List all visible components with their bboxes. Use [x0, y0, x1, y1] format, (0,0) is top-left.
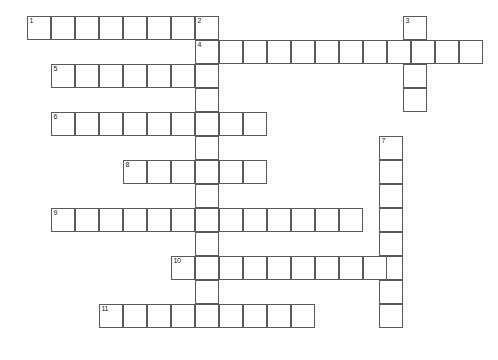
cell-number-4: 4 — [198, 41, 202, 49]
crossword-cell[interactable] — [195, 208, 219, 232]
crossword-cell[interactable] — [363, 40, 387, 64]
crossword-cell[interactable] — [219, 160, 243, 184]
crossword-cell-numbered-7[interactable]: 7 — [379, 136, 403, 160]
crossword-cell[interactable] — [99, 64, 123, 88]
crossword-cell-numbered-3[interactable]: 3 — [403, 16, 427, 40]
crossword-cell[interactable] — [363, 256, 387, 280]
crossword-cell[interactable] — [195, 184, 219, 208]
crossword-cell[interactable] — [147, 16, 171, 40]
crossword-cell[interactable] — [75, 16, 99, 40]
crossword-cell[interactable] — [243, 40, 267, 64]
crossword-cell[interactable] — [403, 88, 427, 112]
crossword-grid: 1243567891011 — [0, 0, 498, 360]
crossword-cell[interactable] — [243, 304, 267, 328]
crossword-cell[interactable] — [195, 280, 219, 304]
cell-number-1: 1 — [30, 17, 34, 25]
crossword-cell[interactable] — [435, 40, 459, 64]
crossword-cell[interactable] — [339, 40, 363, 64]
crossword-cell[interactable] — [75, 64, 99, 88]
crossword-cell[interactable] — [171, 160, 195, 184]
crossword-cell[interactable] — [387, 40, 411, 64]
crossword-cell[interactable] — [195, 160, 219, 184]
crossword-cell[interactable] — [339, 256, 363, 280]
crossword-cell-numbered-4[interactable]: 4 — [195, 40, 219, 64]
crossword-cell[interactable] — [379, 208, 403, 232]
crossword-cell[interactable] — [403, 64, 427, 88]
crossword-cell[interactable] — [147, 64, 171, 88]
cell-number-10: 10 — [174, 257, 181, 265]
crossword-cell[interactable] — [99, 112, 123, 136]
crossword-cell[interactable] — [171, 208, 195, 232]
crossword-cell[interactable] — [171, 16, 195, 40]
crossword-cell[interactable] — [291, 208, 315, 232]
cell-number-8: 8 — [126, 161, 130, 169]
crossword-cell[interactable] — [99, 208, 123, 232]
crossword-cell[interactable] — [411, 40, 435, 64]
crossword-cell[interactable] — [243, 208, 267, 232]
crossword-cell[interactable] — [379, 304, 403, 328]
crossword-cell[interactable] — [123, 64, 147, 88]
crossword-cell[interactable] — [99, 16, 123, 40]
crossword-cell[interactable] — [171, 112, 195, 136]
crossword-cell[interactable] — [267, 40, 291, 64]
crossword-cell[interactable] — [171, 304, 195, 328]
crossword-cell[interactable] — [379, 184, 403, 208]
crossword-cell[interactable] — [219, 256, 243, 280]
crossword-cell[interactable] — [379, 160, 403, 184]
cell-number-2: 2 — [198, 17, 202, 25]
crossword-cell[interactable] — [219, 112, 243, 136]
cell-number-6: 6 — [54, 113, 58, 121]
crossword-cell[interactable] — [379, 232, 403, 256]
crossword-cell[interactable] — [459, 40, 483, 64]
crossword-cell[interactable] — [195, 136, 219, 160]
cell-number-9: 9 — [54, 209, 58, 217]
crossword-cell[interactable] — [75, 208, 99, 232]
crossword-cell[interactable] — [291, 304, 315, 328]
crossword-cell[interactable] — [291, 256, 315, 280]
crossword-cell-numbered-10[interactable]: 10 — [171, 256, 195, 280]
crossword-cell[interactable] — [123, 112, 147, 136]
crossword-cell[interactable] — [195, 232, 219, 256]
crossword-cell-numbered-6[interactable]: 6 — [51, 112, 75, 136]
crossword-cell[interactable] — [267, 304, 291, 328]
crossword-cell[interactable] — [339, 208, 363, 232]
crossword-cell[interactable] — [291, 40, 315, 64]
crossword-cell[interactable] — [243, 112, 267, 136]
crossword-cell[interactable] — [195, 88, 219, 112]
crossword-cell[interactable] — [195, 304, 219, 328]
crossword-cell[interactable] — [243, 256, 267, 280]
crossword-cell[interactable] — [147, 208, 171, 232]
crossword-cell[interactable] — [243, 160, 267, 184]
cell-number-11: 11 — [102, 305, 109, 313]
crossword-cell[interactable] — [171, 64, 195, 88]
crossword-cell[interactable] — [75, 112, 99, 136]
cell-number-5: 5 — [54, 65, 58, 73]
crossword-cell-numbered-11[interactable]: 11 — [99, 304, 123, 328]
crossword-cell[interactable] — [219, 304, 243, 328]
crossword-cell[interactable] — [219, 208, 243, 232]
crossword-cell[interactable] — [147, 112, 171, 136]
crossword-cell[interactable] — [315, 40, 339, 64]
crossword-cell[interactable] — [195, 256, 219, 280]
crossword-cell[interactable] — [219, 40, 243, 64]
crossword-cell[interactable] — [267, 256, 291, 280]
crossword-cell[interactable] — [123, 16, 147, 40]
cell-number-7: 7 — [382, 137, 386, 145]
crossword-cell-numbered-1[interactable]: 1 — [27, 16, 51, 40]
crossword-cell-numbered-5[interactable]: 5 — [51, 64, 75, 88]
crossword-cell[interactable] — [379, 280, 403, 304]
crossword-cell[interactable] — [315, 208, 339, 232]
crossword-cell[interactable] — [147, 304, 171, 328]
crossword-cell[interactable] — [315, 256, 339, 280]
crossword-cell[interactable] — [195, 64, 219, 88]
cell-number-3: 3 — [406, 17, 410, 25]
crossword-cell[interactable] — [123, 304, 147, 328]
crossword-cell[interactable] — [267, 208, 291, 232]
crossword-cell-numbered-8[interactable]: 8 — [123, 160, 147, 184]
crossword-cell[interactable] — [51, 16, 75, 40]
crossword-cell[interactable] — [195, 112, 219, 136]
crossword-cell-numbered-9[interactable]: 9 — [51, 208, 75, 232]
crossword-cell-numbered-2[interactable]: 2 — [195, 16, 219, 40]
crossword-cell[interactable] — [123, 208, 147, 232]
crossword-cell[interactable] — [147, 160, 171, 184]
